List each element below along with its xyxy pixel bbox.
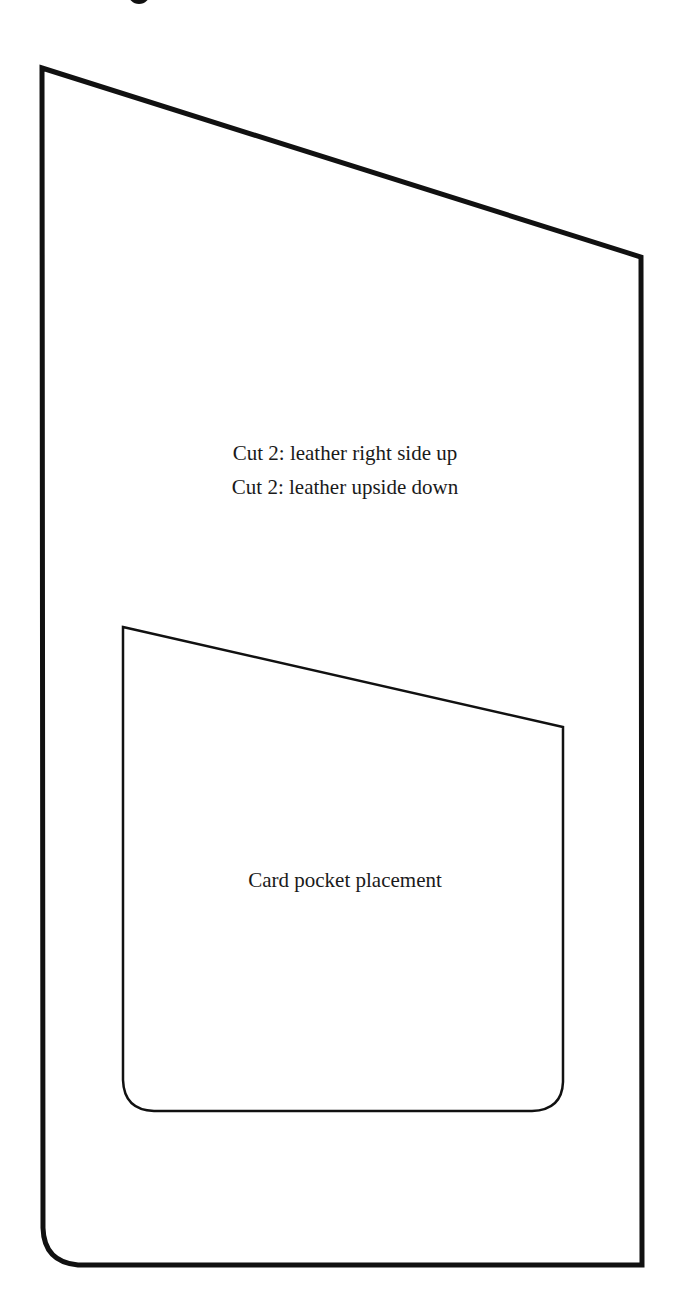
pattern-diagram bbox=[0, 0, 679, 1294]
cut-instruction-upside-down: Cut 2: leather upside down bbox=[0, 470, 679, 504]
outer-pattern-outline bbox=[42, 68, 642, 1265]
card-pocket-label: Card pocket placement bbox=[0, 863, 679, 897]
cut-instruction-right-side-up: Cut 2: leather right side up bbox=[0, 436, 679, 470]
